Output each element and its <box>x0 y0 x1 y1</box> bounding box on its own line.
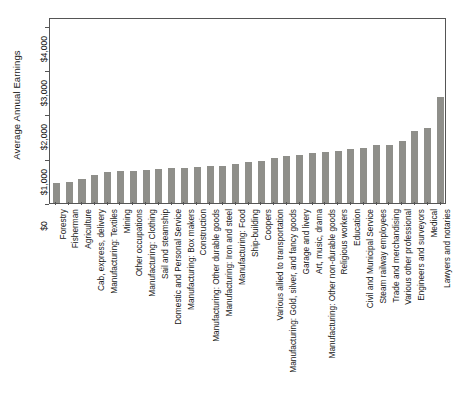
y-axis-title: Average Annual Earnings <box>10 10 24 200</box>
x-axis-tick-mark <box>401 202 402 205</box>
bar <box>168 168 175 203</box>
bar <box>437 97 444 203</box>
x-axis-tick-mark <box>286 202 287 205</box>
x-axis-tick-mark <box>273 202 274 205</box>
bar <box>194 167 201 203</box>
bar <box>91 175 98 203</box>
x-axis-tick-label: Mining <box>123 209 132 233</box>
x-axis-tick-mark <box>68 202 69 205</box>
bar <box>258 161 265 204</box>
bar <box>245 162 252 203</box>
x-axis-tick-mark <box>337 202 338 205</box>
bar <box>283 156 290 203</box>
bar <box>386 145 393 203</box>
x-axis-tick-label: Garage and livery <box>302 209 311 275</box>
bar <box>424 128 431 203</box>
bar <box>399 141 406 203</box>
bar <box>66 182 73 203</box>
x-axis-tick-mark <box>196 202 197 205</box>
x-axis-tick-mark <box>376 202 377 205</box>
bar <box>181 168 188 203</box>
x-axis-tick-mark <box>427 202 428 205</box>
x-axis-tick-mark <box>222 202 223 205</box>
x-axis-tick-label: Manufacturing: Clothing <box>148 209 157 297</box>
x-axis-tick-labels: ForestryFishermanAgricultureCab, express… <box>49 205 446 419</box>
x-axis-tick-mark <box>183 202 184 205</box>
x-axis-tick-label: Construction <box>199 209 208 256</box>
bar <box>360 148 367 203</box>
bar <box>53 183 60 203</box>
x-axis-tick-mark <box>81 202 82 205</box>
x-axis-tick-label: Lawyers and notaries <box>443 209 452 288</box>
bar <box>78 179 85 203</box>
bar <box>373 145 380 203</box>
x-axis-tick-mark <box>94 202 95 205</box>
x-axis-tick-label: Coopers <box>264 209 273 240</box>
x-axis-tick-mark <box>55 202 56 205</box>
x-axis-tick-label: Manufacturing: Iron and steel <box>225 209 234 316</box>
bar <box>143 170 150 203</box>
x-axis-tick-mark <box>324 202 325 205</box>
x-axis-tick-label: Manufacturing: Other durable goods <box>212 209 221 342</box>
bar <box>232 164 239 203</box>
x-axis-tick-label: Manufacturing: Food <box>238 209 247 285</box>
x-axis-tick-label: Other occupations <box>135 209 144 276</box>
x-axis-tick-mark <box>248 202 249 205</box>
x-axis-tick-mark <box>299 202 300 205</box>
x-axis-tick-label: Art, music, drama <box>315 209 324 274</box>
x-axis-tick-label: Forestry <box>59 209 68 239</box>
x-axis-tick-label: Religious workers <box>340 209 349 274</box>
bar <box>117 171 124 203</box>
bar-chart-figure: Average Annual Earnings $0$1,000$2,000$3… <box>0 0 455 419</box>
x-axis-tick-label: Manufacturing: Other non-durable goods <box>328 209 337 358</box>
x-axis-tick-label: Domestic and Personal Service <box>174 209 183 325</box>
x-axis-tick-label: Medical <box>430 209 439 238</box>
x-axis-tick-mark <box>363 202 364 205</box>
x-axis-tick-label: Steam railway employees <box>379 209 388 304</box>
x-axis-tick-mark <box>209 202 210 205</box>
x-axis-tick-label: Cab, express, delivery <box>97 209 106 291</box>
x-axis-tick-label: Ship-building <box>251 209 260 257</box>
x-axis-tick-label: Manufacturing: Textiles <box>110 209 119 294</box>
x-axis-tick-mark <box>350 202 351 205</box>
x-axis-tick-mark <box>107 202 108 205</box>
x-axis-tick-mark <box>414 202 415 205</box>
bar <box>155 169 162 203</box>
bars-layer <box>50 19 445 203</box>
bar <box>322 152 329 203</box>
x-axis-tick-mark <box>388 202 389 205</box>
x-axis-tick-mark <box>145 202 146 205</box>
x-axis-tick-label: Agriculture <box>84 209 93 249</box>
bar <box>296 155 303 203</box>
x-axis-tick-mark <box>171 202 172 205</box>
x-axis-tick-label: Engineers and surveyors <box>417 209 426 301</box>
x-axis-tick-label: Manufacturing: Gold, silver, and fancy g… <box>289 209 298 373</box>
x-axis-tick-label: Fisherman <box>71 209 80 248</box>
x-axis-tick-label: Sail and steamship <box>161 209 170 279</box>
x-axis-tick-label: Various allied to transportation <box>276 209 285 320</box>
x-axis-tick-label: Education <box>353 209 362 246</box>
bar <box>104 172 111 203</box>
bar <box>347 149 354 203</box>
x-axis-tick-mark <box>158 202 159 205</box>
bar <box>309 153 316 203</box>
plot-area <box>49 18 446 204</box>
x-axis-tick-mark <box>260 202 261 205</box>
x-axis-tick-label: Trade and merchandising <box>392 209 401 303</box>
x-axis-tick-mark <box>440 202 441 205</box>
x-axis-tick-label: Manufacturing: Box makers <box>187 209 196 310</box>
x-axis-tick-mark <box>235 202 236 205</box>
bar <box>411 131 418 203</box>
bar <box>271 158 278 203</box>
bar <box>335 151 342 203</box>
x-axis-tick-label: Various other professional <box>404 209 413 305</box>
x-axis-tick-mark <box>132 202 133 205</box>
bar <box>130 171 137 203</box>
x-axis-tick-label: Civil and Municipal Service <box>366 209 375 308</box>
x-axis-tick-mark <box>119 202 120 205</box>
bar <box>207 166 214 203</box>
x-axis-tick-mark <box>312 202 313 205</box>
bar <box>219 166 226 203</box>
